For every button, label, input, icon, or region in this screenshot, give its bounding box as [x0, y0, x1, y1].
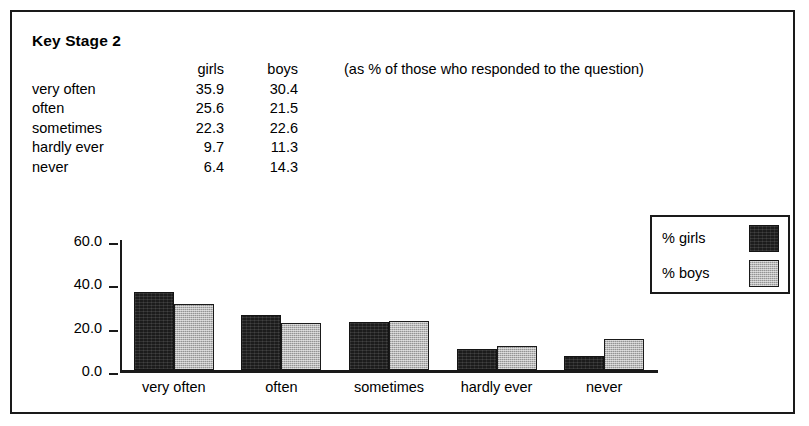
table-cell-spacer [310, 99, 644, 119]
y-axis-tick-mark [109, 373, 118, 375]
table-header-girls: girls [162, 60, 236, 80]
bar-girls [241, 315, 281, 370]
table-cell-girls: 35.9 [162, 80, 236, 100]
legend-swatch-boys [749, 260, 779, 287]
table-cell-label: never [32, 158, 162, 178]
legend-item-girls: % girls [662, 223, 779, 253]
y-axis-tick-label: 20.0 [48, 321, 102, 335]
legend-label-girls: % girls [662, 230, 706, 246]
table-cell-girls: 9.7 [162, 138, 236, 158]
table-header-boys: boys [236, 60, 310, 80]
y-axis-tick-label: 60.0 [48, 234, 102, 248]
bar-boys [174, 304, 214, 370]
x-axis-line [120, 370, 658, 373]
y-axis-tick-mark [109, 286, 118, 288]
table-cell-spacer [310, 138, 644, 158]
table-cell-boys: 30.4 [236, 80, 310, 100]
page-title: Key Stage 2 [32, 32, 121, 50]
bar-girls [349, 322, 389, 370]
y-axis-tick-label: 0.0 [48, 364, 102, 378]
table-cell-girls: 6.4 [162, 158, 236, 178]
x-axis-category-label: sometimes [325, 379, 453, 395]
table-row: often25.621.5 [32, 99, 644, 119]
y-axis-tick-label: 40.0 [48, 277, 102, 291]
x-axis-category-label: very often [110, 379, 238, 395]
table-row: never6.414.3 [32, 158, 644, 178]
legend-item-boys: % boys [662, 258, 779, 288]
bar-girls [134, 292, 174, 370]
x-axis-category-label: never [540, 379, 668, 395]
x-axis-category-label: hardly ever [433, 379, 561, 395]
legend-swatch-girls [749, 225, 779, 252]
bar-boys [389, 321, 429, 370]
bar-girls [564, 356, 604, 370]
table-cell-boys: 11.3 [236, 138, 310, 158]
table-header-row: girls boys (as % of those who responded … [32, 60, 644, 80]
bar-boys [604, 339, 644, 370]
y-axis-tick-mark [109, 330, 118, 332]
chart-legend: % girls % boys [650, 215, 790, 294]
table-cell-label: often [32, 99, 162, 119]
table-cell-girls: 22.3 [162, 119, 236, 139]
table-cell-label: sometimes [32, 119, 162, 139]
figure-frame: Key Stage 2 girls boys (as % of those wh… [10, 10, 795, 414]
table-note: (as % of those who responded to the ques… [310, 60, 644, 80]
x-axis-category-label: often [218, 379, 346, 395]
table-cell-boys: 14.3 [236, 158, 310, 178]
table-cell-girls: 25.6 [162, 99, 236, 119]
table-cell-boys: 21.5 [236, 99, 310, 119]
bar-boys [281, 323, 321, 370]
bar-boys [497, 346, 537, 370]
table-body: very often35.930.4often25.621.5sometimes… [32, 80, 644, 178]
table-cell-spacer [310, 158, 644, 178]
y-axis-tick-mark [109, 243, 118, 245]
table-cell-spacer [310, 119, 644, 139]
table-header-blank [32, 60, 162, 80]
y-axis-line [120, 240, 122, 373]
table-row: sometimes22.322.6 [32, 119, 644, 139]
table-cell-spacer [310, 80, 644, 100]
legend-label-boys: % boys [662, 265, 710, 281]
table-cell-label: very often [32, 80, 162, 100]
table-cell-label: hardly ever [32, 138, 162, 158]
data-table: girls boys (as % of those who responded … [32, 60, 644, 178]
bar-girls [457, 349, 497, 370]
table-row: very often35.930.4 [32, 80, 644, 100]
table-cell-boys: 22.6 [236, 119, 310, 139]
table-row: hardly ever9.711.3 [32, 138, 644, 158]
